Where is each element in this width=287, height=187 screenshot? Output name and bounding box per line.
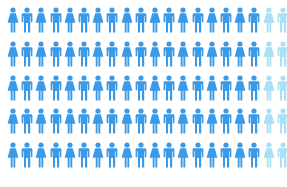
female-person-icon (205, 41, 219, 67)
female-person-icon (233, 108, 247, 134)
male-person-icon (247, 108, 261, 134)
female-person-icon (91, 75, 105, 101)
male-person-icon (276, 7, 287, 33)
female-person-icon (262, 142, 276, 168)
male-person-icon (276, 142, 287, 168)
male-person-icon (49, 41, 63, 67)
male-person-icon (20, 75, 34, 101)
male-person-icon (276, 108, 287, 134)
female-person-icon (148, 41, 162, 67)
female-person-icon (262, 75, 276, 101)
female-person-icon (120, 108, 134, 134)
male-person-icon (162, 142, 176, 168)
male-person-icon (219, 7, 233, 33)
female-person-icon (63, 75, 77, 101)
female-person-icon (91, 108, 105, 134)
male-person-icon (77, 142, 91, 168)
male-person-icon (20, 41, 34, 67)
female-person-icon (205, 7, 219, 33)
male-person-icon (191, 142, 205, 168)
female-person-icon (63, 41, 77, 67)
female-person-icon (6, 41, 20, 67)
male-person-icon (219, 142, 233, 168)
male-person-icon (20, 7, 34, 33)
male-person-icon (276, 41, 287, 67)
male-person-icon (191, 7, 205, 33)
female-person-icon (63, 7, 77, 33)
female-person-icon (148, 142, 162, 168)
male-person-icon (219, 108, 233, 134)
female-person-icon (262, 108, 276, 134)
male-person-icon (105, 142, 119, 168)
female-person-icon (34, 142, 48, 168)
female-person-icon (148, 7, 162, 33)
female-person-icon (176, 142, 190, 168)
female-person-icon (233, 7, 247, 33)
male-person-icon (77, 7, 91, 33)
male-person-icon (105, 75, 119, 101)
male-person-icon (77, 108, 91, 134)
male-person-icon (247, 41, 261, 67)
male-person-icon (191, 108, 205, 134)
female-person-icon (205, 108, 219, 134)
female-person-icon (120, 142, 134, 168)
male-person-icon (191, 75, 205, 101)
male-person-icon (162, 75, 176, 101)
male-person-icon (219, 75, 233, 101)
male-person-icon (134, 75, 148, 101)
male-person-icon (276, 75, 287, 101)
female-person-icon (6, 7, 20, 33)
male-person-icon (49, 7, 63, 33)
female-person-icon (34, 41, 48, 67)
female-person-icon (233, 41, 247, 67)
female-person-icon (91, 142, 105, 168)
female-person-icon (34, 108, 48, 134)
male-person-icon (247, 142, 261, 168)
female-person-icon (205, 75, 219, 101)
female-person-icon (176, 7, 190, 33)
female-person-icon (233, 75, 247, 101)
male-person-icon (134, 142, 148, 168)
male-person-icon (105, 108, 119, 134)
female-person-icon (6, 142, 20, 168)
female-person-icon (233, 142, 247, 168)
female-person-icon (34, 75, 48, 101)
male-person-icon (247, 7, 261, 33)
female-person-icon (6, 108, 20, 134)
male-person-icon (77, 75, 91, 101)
female-person-icon (63, 142, 77, 168)
male-person-icon (134, 7, 148, 33)
female-person-icon (91, 41, 105, 67)
male-person-icon (77, 41, 91, 67)
female-person-icon (148, 75, 162, 101)
female-person-icon (120, 41, 134, 67)
female-person-icon (6, 75, 20, 101)
male-person-icon (49, 142, 63, 168)
male-person-icon (105, 7, 119, 33)
female-person-icon (262, 7, 276, 33)
female-person-icon (34, 7, 48, 33)
male-person-icon (162, 7, 176, 33)
female-person-icon (262, 41, 276, 67)
male-person-icon (49, 108, 63, 134)
male-person-icon (105, 41, 119, 67)
male-person-icon (20, 142, 34, 168)
male-person-icon (191, 41, 205, 67)
male-person-icon (162, 108, 176, 134)
male-person-icon (134, 108, 148, 134)
male-person-icon (134, 41, 148, 67)
female-person-icon (63, 108, 77, 134)
male-person-icon (162, 41, 176, 67)
male-person-icon (49, 75, 63, 101)
female-person-icon (148, 108, 162, 134)
female-person-icon (205, 142, 219, 168)
female-person-icon (176, 41, 190, 67)
female-person-icon (176, 108, 190, 134)
male-person-icon (20, 108, 34, 134)
female-person-icon (91, 7, 105, 33)
female-person-icon (120, 75, 134, 101)
female-person-icon (176, 75, 190, 101)
female-person-icon (120, 7, 134, 33)
male-person-icon (219, 41, 233, 67)
male-person-icon (247, 75, 261, 101)
